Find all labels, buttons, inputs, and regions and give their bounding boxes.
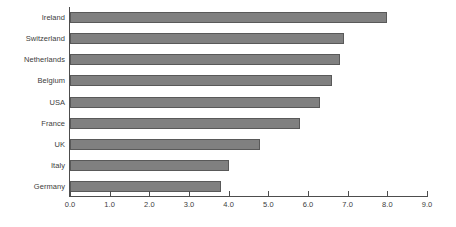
x-axis-tick-mark	[348, 191, 349, 196]
bar	[70, 12, 387, 23]
x-axis-tick-label: 6.0	[288, 200, 328, 209]
x-axis-tick-mark	[70, 191, 71, 196]
category-label: Belgium	[0, 75, 65, 86]
horizontal-bar-chart: IrelandSwitzerlandNetherlandsBelgiumUSAF…	[0, 0, 456, 227]
category-label: Germany	[0, 181, 65, 192]
x-axis-tick-label: 2.0	[129, 200, 169, 209]
bar	[70, 33, 344, 44]
x-axis-tick-mark	[149, 191, 150, 196]
category-label: Ireland	[0, 12, 65, 23]
category-label: France	[0, 118, 65, 129]
x-axis-tick-label: 5.0	[248, 200, 288, 209]
category-label: Italy	[0, 160, 65, 171]
x-axis-tick-label: 8.0	[367, 200, 407, 209]
x-axis-tick-mark	[308, 191, 309, 196]
bar	[70, 160, 229, 171]
x-axis-tick-mark	[110, 191, 111, 196]
bar	[70, 181, 221, 192]
bar	[70, 97, 320, 108]
category-label: Netherlands	[0, 54, 65, 65]
bar	[70, 75, 332, 86]
x-axis-tick-label: 1.0	[90, 200, 130, 209]
x-axis-tick-label: 3.0	[169, 200, 209, 209]
bar	[70, 54, 340, 65]
x-axis-tick-mark	[189, 191, 190, 196]
x-axis-tick-mark	[268, 191, 269, 196]
x-axis-tick-mark	[229, 191, 230, 196]
bar	[70, 139, 260, 150]
x-axis-tick-label: 0.0	[50, 200, 90, 209]
category-label: UK	[0, 139, 65, 150]
x-axis-tick-mark	[387, 191, 388, 196]
x-axis-tick-label: 9.0	[407, 200, 447, 209]
x-axis-tick-label: 7.0	[328, 200, 368, 209]
category-label: USA	[0, 97, 65, 108]
bar	[70, 118, 300, 129]
x-axis-line	[69, 196, 428, 197]
category-label: Switzerland	[0, 33, 65, 44]
x-axis-tick-label: 4.0	[209, 200, 249, 209]
x-axis-tick-mark	[427, 191, 428, 196]
